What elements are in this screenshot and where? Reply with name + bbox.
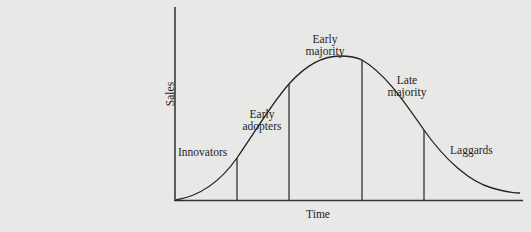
segment-label-innovators: Innovators [178,146,227,158]
adoption-curve-diagram: Sales Time Innovators Early adopters Ear… [0,0,531,232]
segment-label-laggards: Laggards [450,144,493,156]
segment-label-early-adopters-line1: Early [240,108,284,120]
segment-label-late-majority-line1: Late [384,74,430,86]
segment-label-early-majority: Early majority [303,33,347,57]
segment-label-late-majority: Late majority [384,74,430,98]
segment-label-early-majority-line1: Early [303,33,347,45]
segment-label-early-majority-line2: majority [303,45,347,57]
y-axis-label: Sales [164,79,176,109]
segment-label-early-adopters: Early adopters [240,108,284,132]
segment-label-early-adopters-line2: adopters [240,120,284,132]
adoption-curve [176,56,520,200]
x-axis-label: Time [300,208,336,220]
segment-label-late-majority-line2: majority [384,86,430,98]
